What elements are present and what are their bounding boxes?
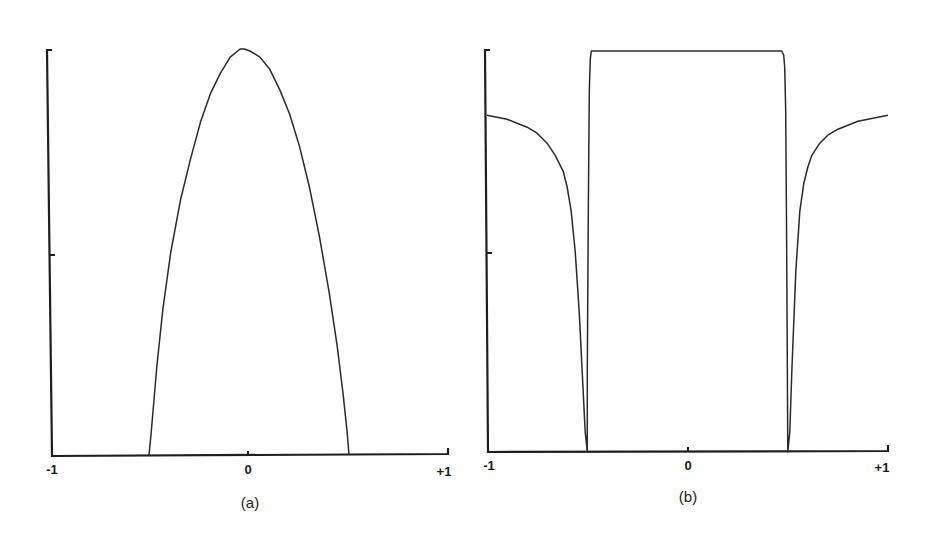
panel-b-x-tick-label-zero: 0 <box>684 458 691 473</box>
figure: -1 0 +1 (a) -1 0 +1 (b) <box>0 0 929 553</box>
panel-b-x-tick-label-min: -1 <box>483 458 495 473</box>
panel-a-x-tick-label-max: +1 <box>437 464 452 479</box>
panel-b-axes <box>485 50 888 452</box>
panel-a-curve <box>149 49 349 455</box>
panel-b: -1 0 +1 (b) <box>483 50 889 505</box>
panel-a: -1 0 +1 (a) <box>46 49 451 511</box>
panel-b-caption: (b) <box>679 488 697 505</box>
panel-b-curve <box>487 51 888 452</box>
panel-a-x-tick-label-zero: 0 <box>244 462 251 477</box>
panel-a-caption: (a) <box>241 494 259 511</box>
panel-a-x-tick-label-min: -1 <box>46 462 58 477</box>
panel-b-x-tick-label-max: +1 <box>875 460 890 475</box>
panel-a-axes <box>47 50 448 456</box>
